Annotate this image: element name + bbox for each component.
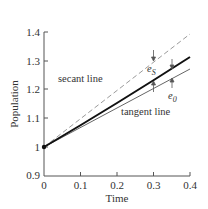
y-tick-label: 1.2: [26, 83, 40, 95]
x-ticks: [81, 172, 191, 176]
tangent-line-label: tangent line: [121, 106, 171, 117]
e0-error-arrows: [170, 59, 174, 88]
solution-curve: [44, 57, 190, 147]
es-label: eS: [147, 63, 156, 77]
e0-label: e0: [168, 90, 177, 104]
chart-plot: 1.4 1.3 1.2 1.1 1 0.9 0 0.1 0.2 0.3 0.4 …: [0, 0, 208, 209]
y-tick-label: 0.9: [26, 169, 40, 181]
y-tick-label: 1.1: [26, 112, 40, 124]
y-tick-label: 1.3: [26, 55, 40, 67]
initial-point: [42, 145, 46, 149]
x-tick-label: 0.4: [183, 179, 197, 191]
y-axis-label: Population: [8, 80, 20, 128]
x-tick-label: 0.1: [74, 179, 88, 191]
y-tick-label: 1.4: [26, 26, 40, 38]
x-tick-label: 0: [41, 179, 47, 191]
secant-line-label: secant line: [58, 73, 103, 84]
x-tick-label: 0.2: [110, 179, 124, 191]
x-tick-label: 0.3: [147, 179, 161, 191]
x-axis-label: Time: [106, 192, 129, 204]
y-ticks: [44, 32, 48, 147]
y-tick-label: 1: [35, 141, 41, 153]
